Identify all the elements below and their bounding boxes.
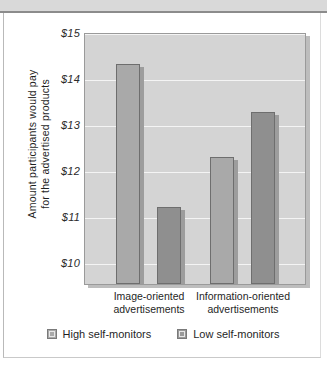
y-tick-11: $11: [62, 212, 80, 223]
y-tick-15: $15: [61, 28, 80, 39]
chart-legend: High self-monitors Low self-monitors: [4, 328, 322, 340]
figure-card: Amount participants would pay for the ad…: [3, 13, 321, 358]
gridline-15: [85, 34, 305, 35]
legend-swatch-low-self-monitors: [177, 329, 187, 339]
x-label-information-line-1: Information-oriented: [173, 290, 313, 303]
y-tick-14: $14: [61, 74, 80, 85]
y-tick-12: $12: [61, 166, 80, 177]
y-axis-title-line-1: Amount participants would pay: [26, 29, 39, 259]
chart-container: Amount participants would pay for the ad…: [4, 13, 322, 358]
legend-swatch-high-self-monitors: [47, 329, 57, 339]
top-band: [0, 0, 327, 11]
x-label-information-oriented: Information-oriented advertisements: [173, 290, 313, 316]
legend-label-high-self-monitors: High self-monitors: [63, 328, 152, 340]
plot-area: [84, 33, 306, 285]
y-axis-ticks: $15 $14 $13 $12 $11 $10: [40, 13, 80, 305]
legend-label-low-self-monitors: Low self-monitors: [193, 328, 279, 340]
bar-image-high-self-monitors: [116, 64, 140, 284]
y-tick-10: $10: [61, 258, 80, 269]
bar-information-high-self-monitors: [210, 157, 234, 284]
bar-information-low-self-monitors: [251, 112, 275, 284]
legend-item-low-self-monitors: Low self-monitors: [177, 328, 279, 340]
y-tick-13: $13: [61, 120, 80, 131]
x-label-information-line-2: advertisements: [173, 303, 313, 316]
legend-item-high-self-monitors: High self-monitors: [47, 328, 152, 340]
figure-root: Amount participants would pay for the ad…: [0, 0, 327, 366]
bar-image-low-self-monitors: [157, 207, 181, 284]
x-axis-labels: Image-oriented advertisements Informatio…: [84, 290, 306, 322]
